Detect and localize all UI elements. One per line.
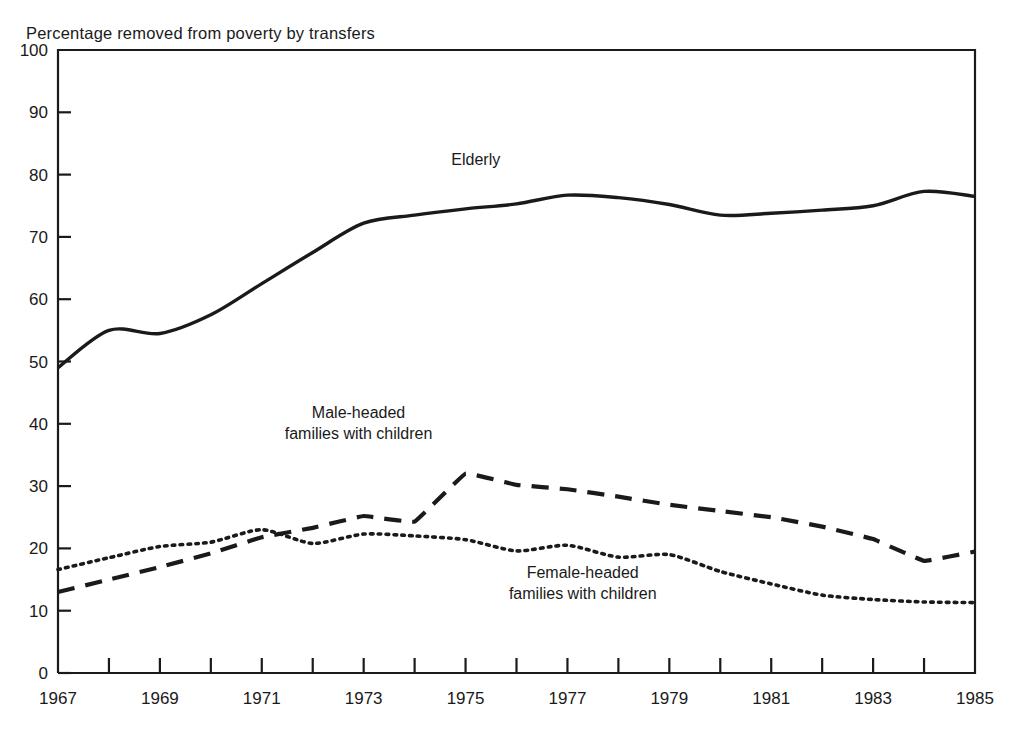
data-series-group bbox=[58, 191, 975, 602]
series-line-1 bbox=[58, 191, 975, 368]
chart-plot-area: 0102030405060708090100 19671969197119731… bbox=[0, 0, 1012, 733]
x-axis-tick-label: 1971 bbox=[243, 689, 281, 708]
x-axis-tick-label: 1985 bbox=[956, 689, 994, 708]
x-axis-tick-label: 1981 bbox=[752, 689, 790, 708]
x-axis-tick-label: 1967 bbox=[39, 689, 77, 708]
poverty-transfers-chart: Percentage removed from poverty by trans… bbox=[0, 0, 1012, 733]
y-axis-tick-label: 20 bbox=[29, 539, 48, 558]
series-annotation-2: Male-headed bbox=[312, 404, 405, 421]
series-line-2 bbox=[58, 474, 975, 592]
y-axis-tick-label: 30 bbox=[29, 477, 48, 496]
series-annotation-3: Female-headed bbox=[527, 564, 639, 581]
y-axis-tick-label: 50 bbox=[29, 353, 48, 372]
y-axis-tick-label: 0 bbox=[39, 664, 48, 683]
plot-frame bbox=[58, 50, 975, 673]
x-axis-label-group: 1967196919711973197519771979198119831985 bbox=[39, 689, 994, 708]
series-annotation-2: families with children bbox=[285, 425, 433, 442]
y-axis-tick-label: 90 bbox=[29, 103, 48, 122]
y-axis-tick-label: 100 bbox=[20, 41, 48, 60]
y-axis-tick-label: 40 bbox=[29, 415, 48, 434]
x-axis-tick-label: 1977 bbox=[549, 689, 587, 708]
x-axis-tick-group bbox=[109, 658, 924, 673]
series-annotation-group: ElderlyMale-headedfamilies with children… bbox=[285, 151, 657, 602]
y-axis-tick-label: 60 bbox=[29, 290, 48, 309]
y-axis-tick-label: 10 bbox=[29, 602, 48, 621]
y-axis-tick-label: 80 bbox=[29, 166, 48, 185]
x-axis-tick-label: 1969 bbox=[141, 689, 179, 708]
y-axis-tick-label: 70 bbox=[29, 228, 48, 247]
series-annotation-3: families with children bbox=[509, 585, 657, 602]
x-axis-tick-label: 1975 bbox=[447, 689, 485, 708]
series-annotation-1: Elderly bbox=[451, 151, 500, 168]
y-axis-label-group: 0102030405060708090100 bbox=[20, 41, 48, 683]
x-axis-tick-label: 1979 bbox=[650, 689, 688, 708]
x-axis-tick-label: 1983 bbox=[854, 689, 892, 708]
x-axis-tick-label: 1973 bbox=[345, 689, 383, 708]
